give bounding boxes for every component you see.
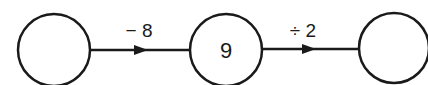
arrow-head-icon	[134, 45, 148, 55]
node-value: 9	[220, 38, 232, 63]
edge-subtract: − 8	[90, 20, 190, 55]
node-middle: 9	[190, 14, 262, 85]
flow-diagram: − 8 ÷ 2 9	[0, 0, 428, 85]
circle-node	[359, 13, 428, 83]
operation-label: ÷ 2	[290, 20, 316, 41]
edge-divide: ÷ 2	[262, 20, 359, 54]
circle-node	[18, 14, 90, 85]
node-input	[18, 14, 90, 85]
node-output	[359, 13, 428, 83]
arrow-head-icon	[302, 44, 316, 54]
operation-label: − 8	[126, 20, 153, 41]
